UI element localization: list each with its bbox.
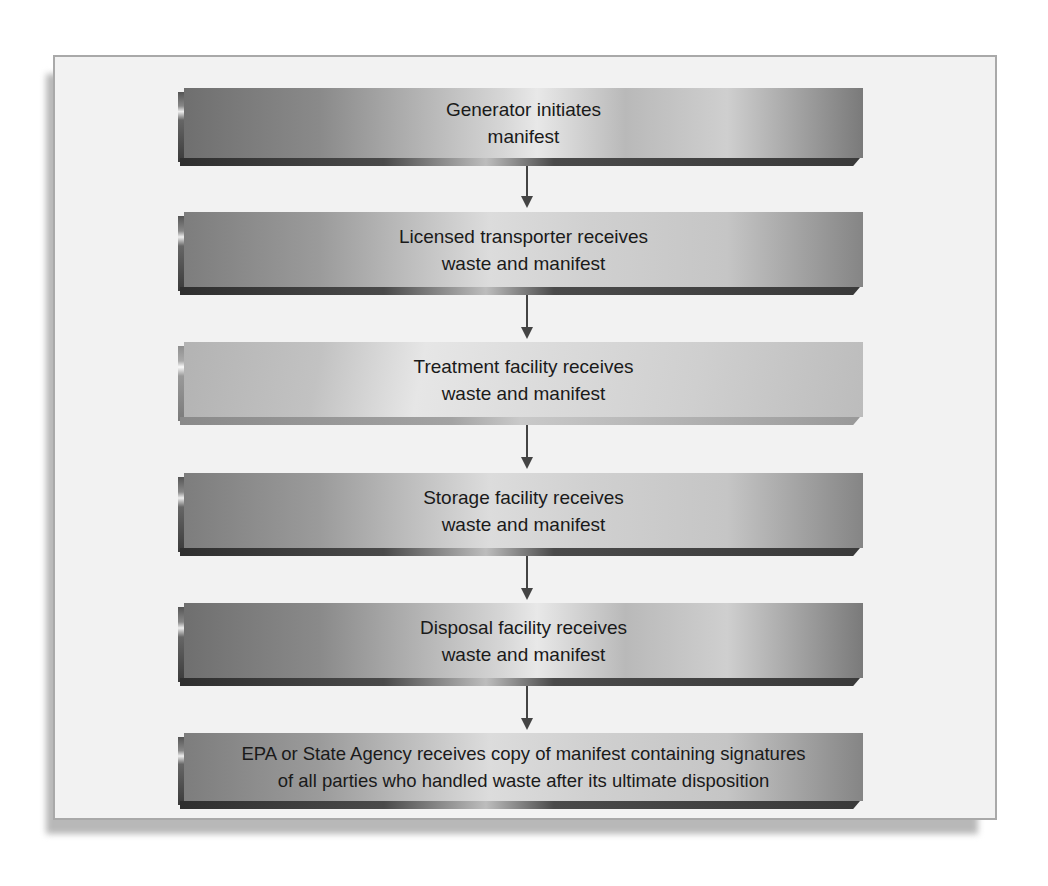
step-disposal-facility: Disposal facility receiveswaste and mani… — [178, 603, 863, 686]
box-bottom-bevel — [180, 417, 860, 425]
arrow-down-icon — [526, 425, 528, 467]
step-label: Treatment facility receiveswaste and man… — [184, 342, 863, 417]
step-label-line1: Storage facility receives — [423, 484, 624, 511]
step-label: EPA or State Agency receives copy of man… — [184, 733, 863, 801]
box-bottom-bevel — [180, 287, 860, 295]
step-label-line1: Disposal facility receives — [420, 614, 627, 641]
step-label: Generator initiatesmanifest — [184, 88, 863, 158]
step-label: Storage facility receiveswaste and manif… — [184, 473, 863, 548]
arrowhead-icon — [521, 196, 533, 208]
step-licensed-transporter: Licensed transporter receiveswaste and m… — [178, 212, 863, 295]
step-label: Licensed transporter receiveswaste and m… — [184, 212, 863, 287]
step-treatment-facility: Treatment facility receiveswaste and man… — [178, 342, 863, 425]
step-generator-initiates-manifest: Generator initiatesmanifest — [178, 88, 863, 166]
arrow-down-icon — [526, 166, 528, 206]
step-label-line1: Generator initiates — [446, 96, 601, 123]
step-label-line1: Licensed transporter receives — [399, 223, 648, 250]
box-bottom-bevel — [180, 158, 860, 166]
arrow-down-icon — [526, 686, 528, 728]
step-label-line1: EPA or State Agency receives copy of man… — [241, 740, 805, 767]
arrowhead-icon — [521, 588, 533, 600]
box-bottom-bevel — [180, 801, 860, 809]
step-label-line2: waste and manifest — [423, 511, 624, 538]
box-bottom-bevel — [180, 678, 860, 686]
diagram-frame — [53, 55, 997, 820]
step-label: Disposal facility receiveswaste and mani… — [184, 603, 863, 678]
step-label-line2: waste and manifest — [414, 380, 634, 407]
step-label-line1: Treatment facility receives — [414, 353, 634, 380]
arrowhead-icon — [521, 327, 533, 339]
box-bottom-bevel — [180, 548, 860, 556]
step-epa-state-agency: EPA or State Agency receives copy of man… — [178, 733, 863, 809]
step-storage-facility: Storage facility receiveswaste and manif… — [178, 473, 863, 556]
arrowhead-icon — [521, 718, 533, 730]
arrowhead-icon — [521, 457, 533, 469]
step-label-line2: waste and manifest — [399, 250, 648, 277]
arrow-down-icon — [526, 295, 528, 337]
step-label-line2: manifest — [446, 123, 601, 150]
arrow-down-icon — [526, 556, 528, 598]
step-label-line2: waste and manifest — [420, 641, 627, 668]
step-label-line2: of all parties who handled waste after i… — [241, 767, 805, 794]
